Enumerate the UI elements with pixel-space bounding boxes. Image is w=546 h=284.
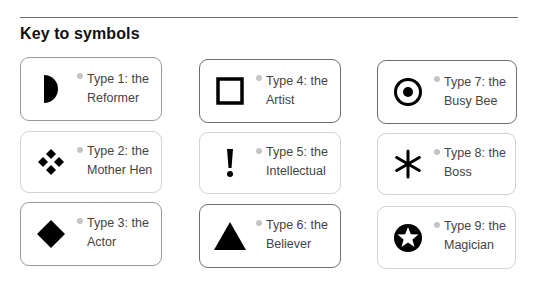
symbol-type: Type 9: the [444,217,506,236]
asterisk-icon [392,148,424,180]
symbol-name: Reformer [87,89,149,108]
symbol-label: Type 8: the Boss [444,144,506,182]
symbol-type: Type 1: the [87,70,149,89]
top-divider [20,17,518,18]
diamond-icon [35,218,67,250]
symbol-card-type-1: Type 1: the Reformer [20,57,162,121]
symbol-type: Type 8: the [444,144,506,163]
symbol-label: Type 1: the Reformer [87,70,149,108]
symbol-name: Intellectual [266,162,328,181]
hollow-square-icon [214,75,246,107]
symbol-label: Type 7: the Busy Bee [444,73,506,111]
symbol-name: Busy Bee [444,92,506,111]
bullet-dot [434,76,440,82]
symbol-type: Type 6: the [266,216,328,235]
symbol-card-type-5: Type 5: the Intellectual [199,132,341,194]
bullet-dot [434,222,440,228]
symbol-type: Type 2: the [87,142,152,161]
bullet-dot [256,220,262,226]
symbol-name: Believer [266,235,328,254]
bullet-dot [256,75,262,81]
symbol-card-type-4: Type 4: the Artist [199,59,341,123]
symbol-type: Type 5: the [266,143,328,162]
symbol-label: Type 5: the Intellectual [266,143,328,181]
symbol-card-type-7: Type 7: the Busy Bee [377,60,517,124]
symbol-name: Boss [444,163,506,182]
symbol-name: Artist [266,91,328,110]
symbol-label: Type 3: the Actor [87,214,149,252]
bullet-dot [77,147,83,153]
symbol-name: Magician [444,236,506,255]
triangle-icon [212,220,248,252]
symbol-label: Type 4: the Artist [266,72,328,110]
symbol-type: Type 4: the [266,72,328,91]
symbol-type: Type 7: the [444,73,506,92]
symbol-name: Mother Hen [87,161,152,180]
bullet-dot [256,148,262,154]
symbol-label: Type 9: the Magician [444,217,506,255]
symbol-label: Type 2: the Mother Hen [87,142,152,180]
symbol-card-type-6: Type 6: the Believer [199,204,341,268]
dot-in-circle-icon [392,76,424,108]
bullet-dot [77,218,83,224]
symbol-label: Type 6: the Believer [266,216,328,254]
symbol-card-type-3: Type 3: the Actor [20,202,162,266]
symbol-card-type-2: Type 2: the Mother Hen [20,131,162,193]
symbol-card-type-9: Type 9: the Magician [377,206,516,269]
bullet-dot [77,73,83,79]
symbol-type: Type 3: the [87,214,149,233]
exclamation-icon [214,147,246,179]
star-in-circle-icon [392,222,424,254]
symbol-name: Actor [87,233,149,252]
four-diamonds-icon [35,146,67,178]
symbol-card-type-8: Type 8: the Boss [377,133,516,195]
bullet-dot [434,149,440,155]
half-circle-icon [35,73,67,105]
page-title: Key to symbols [20,25,140,43]
